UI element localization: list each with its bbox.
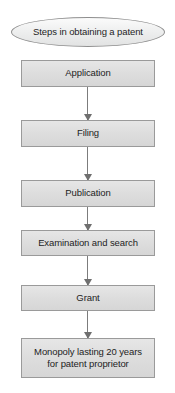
connector-publication-to-examination: [87, 207, 89, 230]
node-grant-label: Grant: [22, 292, 154, 305]
node-monopoly-label-line-2: for patent proprietor: [47, 358, 128, 369]
flowchart-title-node: Steps in obtaining a patent: [11, 17, 165, 47]
node-application-label: Application: [22, 67, 154, 80]
node-monopoly: Monopoly lasting 20 years for patent pro…: [21, 338, 155, 378]
connector-application-to-filing: [87, 87, 89, 120]
node-grant: Grant: [21, 285, 155, 311]
node-application: Application: [21, 60, 155, 87]
node-filing-label: Filing: [22, 127, 154, 140]
node-examination-and-search: Examination and search: [21, 230, 155, 256]
node-examination-and-search-label: Examination and search: [22, 237, 154, 250]
node-filing: Filing: [21, 120, 155, 147]
connector-examination-to-grant: [87, 256, 89, 285]
node-publication: Publication: [21, 180, 155, 207]
connector-filing-to-publication: [87, 147, 89, 180]
flowchart-title-label: Steps in obtaining a patent: [33, 27, 143, 37]
node-monopoly-label-line-1: Monopoly lasting 20 years: [34, 346, 142, 357]
patent-process-flowchart: Steps in obtaining a patent Application …: [0, 0, 175, 393]
connector-grant-to-monopoly: [87, 311, 89, 338]
node-publication-label: Publication: [22, 187, 154, 200]
node-monopoly-label: Monopoly lasting 20 years for patent pro…: [22, 346, 154, 371]
